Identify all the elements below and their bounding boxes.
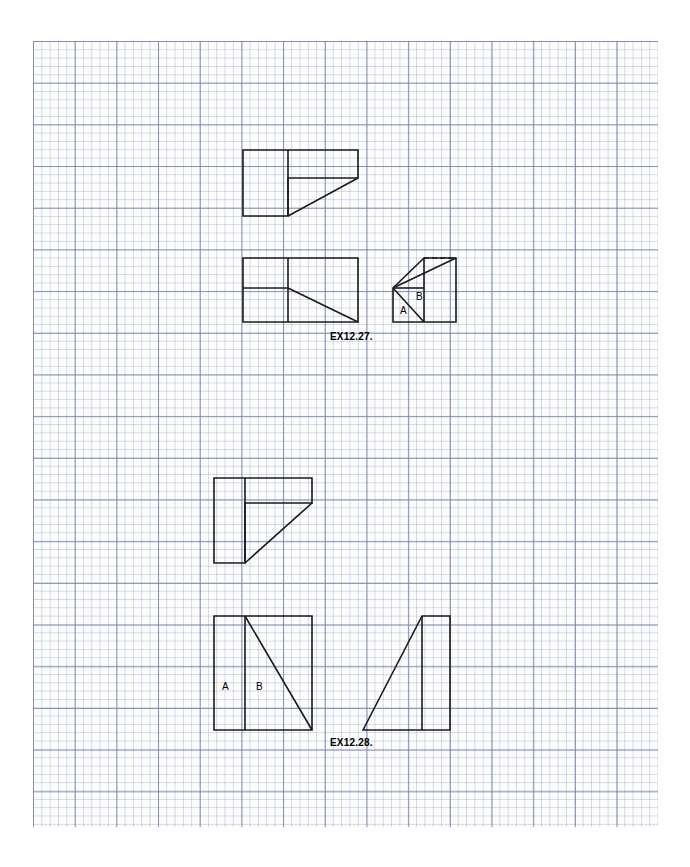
ex-12-28-top-view [214, 478, 312, 563]
front-view-inclined-edge [245, 616, 312, 730]
face-label-a-ex1228: A [222, 681, 229, 692]
ex-12-27-top-view [243, 150, 358, 216]
face-label-a-ex1227: A [400, 305, 407, 316]
front-view-inclined-edge [288, 288, 358, 322]
front-view-outline [243, 258, 358, 322]
ex-12-27-front-view [243, 258, 358, 322]
side-view-outline [363, 616, 450, 730]
face-label-b-ex1227: B [416, 291, 423, 302]
top-view-outline [214, 478, 312, 563]
figure-label-ex-12-27: EX12.27. [330, 331, 373, 342]
worksheet-sheet: A B EX12.27. A B EX12.28. [0, 0, 690, 867]
exercise-ex-12-28 [214, 478, 450, 730]
top-view-outline [243, 150, 358, 216]
top-view-inclined-edge [288, 178, 358, 216]
ex-12-28-front-view [214, 616, 312, 730]
ex-12-28-side-view [363, 616, 450, 730]
exercise-ex-12-27 [243, 150, 456, 322]
face-label-b-ex1228: B [256, 681, 263, 692]
figure-label-ex-12-28: EX12.28. [330, 737, 373, 748]
front-view-outline [214, 616, 312, 730]
top-view-inclined-edge [245, 503, 312, 563]
